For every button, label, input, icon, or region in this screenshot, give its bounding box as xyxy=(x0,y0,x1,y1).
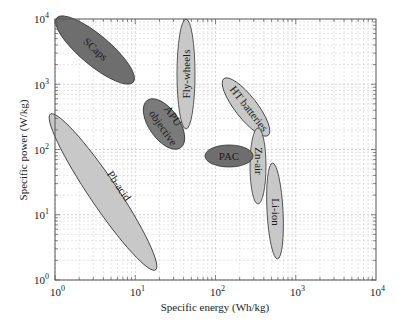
y-tick-2: 102 xyxy=(34,142,49,156)
ragone-chart: SCaps Fly-wheels APU objective HT batter… xyxy=(0,0,405,325)
x-tick-3: 103 xyxy=(290,284,305,298)
y-axis-title: Specific power (W/kg) xyxy=(17,99,30,200)
y-tick-1: 101 xyxy=(34,207,49,221)
x-tick-labels: 100 101 102 103 104 xyxy=(50,284,385,298)
y-tick-3: 103 xyxy=(34,77,49,91)
label-fly-wheels: Fly-wheels xyxy=(180,50,192,99)
label-li-ion: Li-ion xyxy=(270,198,282,226)
label-pac: PAC xyxy=(219,150,239,162)
y-tick-4: 104 xyxy=(34,11,49,25)
x-tick-2: 102 xyxy=(210,284,225,298)
x-tick-0: 100 xyxy=(50,284,65,298)
label-zn-air: Zn-air xyxy=(253,147,265,175)
x-axis-title: Specific energy (Wh/kg) xyxy=(161,301,270,314)
y-tick-labels: 100 101 102 103 104 xyxy=(34,11,49,286)
x-tick-4: 104 xyxy=(370,284,385,298)
x-tick-1: 101 xyxy=(130,284,145,298)
y-tick-0: 100 xyxy=(34,272,49,286)
